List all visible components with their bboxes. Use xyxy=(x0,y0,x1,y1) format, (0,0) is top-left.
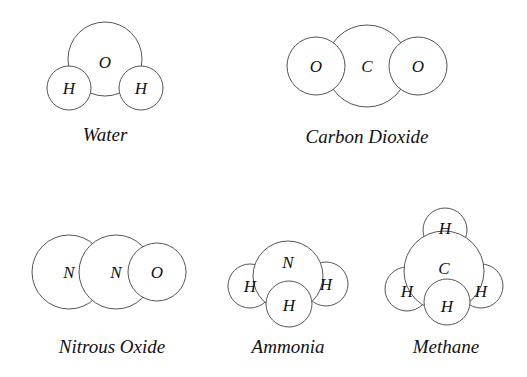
atom-symbol: C xyxy=(438,259,450,278)
atom-symbol: H xyxy=(134,79,149,98)
atom-symbol: C xyxy=(361,57,373,76)
atom-symbol: H xyxy=(474,282,489,301)
molecule-name-label: Ammonia xyxy=(250,336,325,357)
atom-symbol: N xyxy=(62,263,76,282)
atom-symbol: H xyxy=(319,275,334,294)
molecule-carbon-dioxide: COOCarbon Dioxide xyxy=(287,25,447,147)
atom-symbol: H xyxy=(243,277,258,296)
molecule-name-label: Nitrous Oxide xyxy=(58,336,165,357)
molecule-diagram: OHHWater COOCarbon Dioxide NNONitrous Ox… xyxy=(0,0,527,377)
atom-symbol: H xyxy=(400,282,415,301)
atom-symbol: O xyxy=(412,57,424,76)
atom-symbol: H xyxy=(438,219,453,238)
molecule-name-label: Carbon Dioxide xyxy=(306,126,429,147)
atom-symbol: H xyxy=(282,296,297,315)
atom-symbol: H xyxy=(440,297,455,316)
molecule-methane: HHHCHMethane xyxy=(385,208,503,357)
molecule-ammonia: HHNHAmmonia xyxy=(228,241,348,357)
atom-symbol: O xyxy=(99,53,111,72)
atom-symbol: N xyxy=(281,253,295,272)
atom-symbol: N xyxy=(109,263,123,282)
molecule-water: OHHWater xyxy=(47,22,163,145)
atom-symbol: O xyxy=(310,57,322,76)
molecule-nitrous-oxide: NNONitrous Oxide xyxy=(32,235,186,357)
atom-symbol: O xyxy=(151,263,163,282)
molecule-name-label: Methane xyxy=(412,336,479,357)
atom-symbol: H xyxy=(62,79,77,98)
molecule-name-label: Water xyxy=(83,124,128,145)
